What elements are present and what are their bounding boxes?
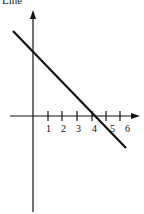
y-axis-arrow-icon bbox=[30, 10, 36, 19]
x-tick-label-1: 1 bbox=[46, 123, 51, 134]
x-tick-label-6: 6 bbox=[125, 123, 130, 134]
line-graph: 1 2 3 4 5 6 bbox=[0, 0, 144, 214]
x-tick-label-4: 4 bbox=[92, 123, 97, 134]
x-tick-label-2: 2 bbox=[61, 123, 66, 134]
x-axis-arrow-icon bbox=[131, 113, 140, 119]
plotted-line bbox=[13, 31, 126, 148]
x-tick-label-3: 3 bbox=[76, 123, 81, 134]
